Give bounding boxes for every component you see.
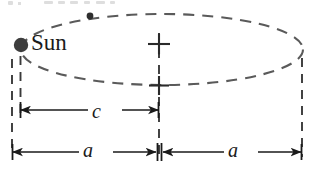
dimension-line-c xyxy=(21,102,159,118)
sun-body-icon xyxy=(14,38,28,52)
orbit-diagram-canvas xyxy=(0,0,319,175)
center-plus-icon xyxy=(148,34,170,55)
planet-body-icon xyxy=(87,13,94,20)
dimension-label-a-left: a xyxy=(83,140,93,160)
dimension-label-c: c xyxy=(92,101,101,121)
orbit-diagram-figure: Sun c a a xyxy=(0,0,319,175)
sun-label: Sun xyxy=(31,31,67,54)
dimension-label-a-right: a xyxy=(228,140,238,160)
bottom-center-plus-icon xyxy=(149,76,169,95)
